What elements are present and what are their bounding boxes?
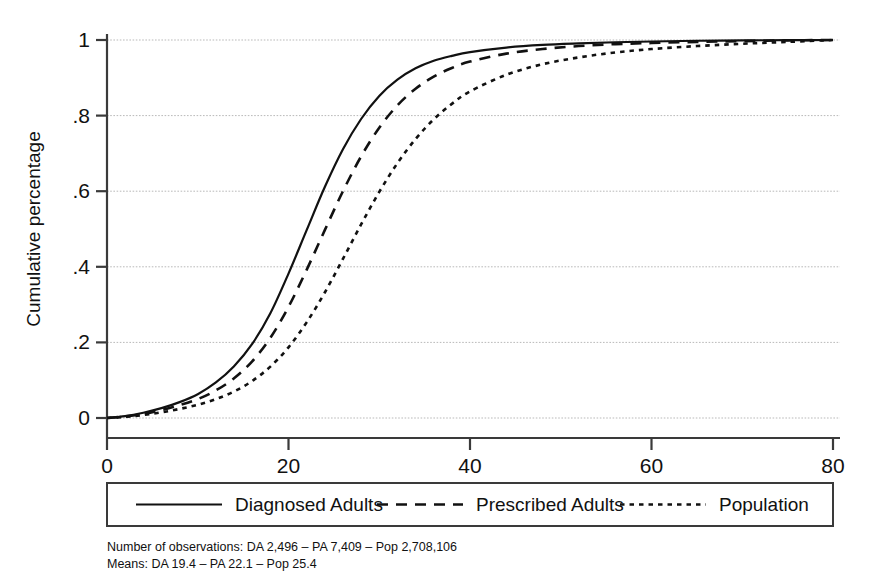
- x-tick-label-2: 40: [458, 454, 481, 477]
- cumulative-distribution-chart: 0 .2 .4 .6 .8 1 0 20 40 60 80 Cumulative…: [0, 0, 871, 579]
- legend-label-prescribed: Prescribed Adults: [476, 494, 624, 515]
- y-tick-label-0: 0: [78, 406, 90, 429]
- gridlines: [107, 40, 840, 418]
- series-line-diagnosed-adults: [107, 40, 833, 418]
- x-tick-label-0: 0: [101, 454, 113, 477]
- y-tick-label-4: .8: [72, 104, 90, 127]
- y-axis-label: Cumulative percentage: [23, 131, 44, 326]
- x-tick-label-4: 80: [821, 454, 844, 477]
- note-means: Means: DA 19.4 – PA 22.1 – Pop 25.4: [107, 557, 317, 571]
- figure-container: 0 .2 .4 .6 .8 1 0 20 40 60 80 Cumulative…: [0, 0, 871, 579]
- y-tick-label-1: .2: [72, 330, 90, 353]
- x-tick-marks: [107, 438, 833, 450]
- legend-label-population: Population: [719, 494, 809, 515]
- legend-label-diagnosed: Diagnosed Adults: [235, 494, 383, 515]
- series-line-prescribed-adults: [107, 40, 833, 418]
- x-tick-label-3: 60: [640, 454, 663, 477]
- series-line-population: [107, 40, 833, 418]
- y-tick-label-3: .6: [72, 179, 90, 202]
- data-series-group: [107, 40, 833, 418]
- axis-lines: [107, 34, 840, 438]
- y-tick-label-5: 1: [78, 28, 90, 51]
- note-observations: Number of observations: DA 2,496 – PA 7,…: [107, 540, 457, 554]
- y-tick-label-2: .4: [72, 255, 90, 278]
- x-tick-label-1: 20: [277, 454, 300, 477]
- y-tick-marks: [96, 40, 107, 418]
